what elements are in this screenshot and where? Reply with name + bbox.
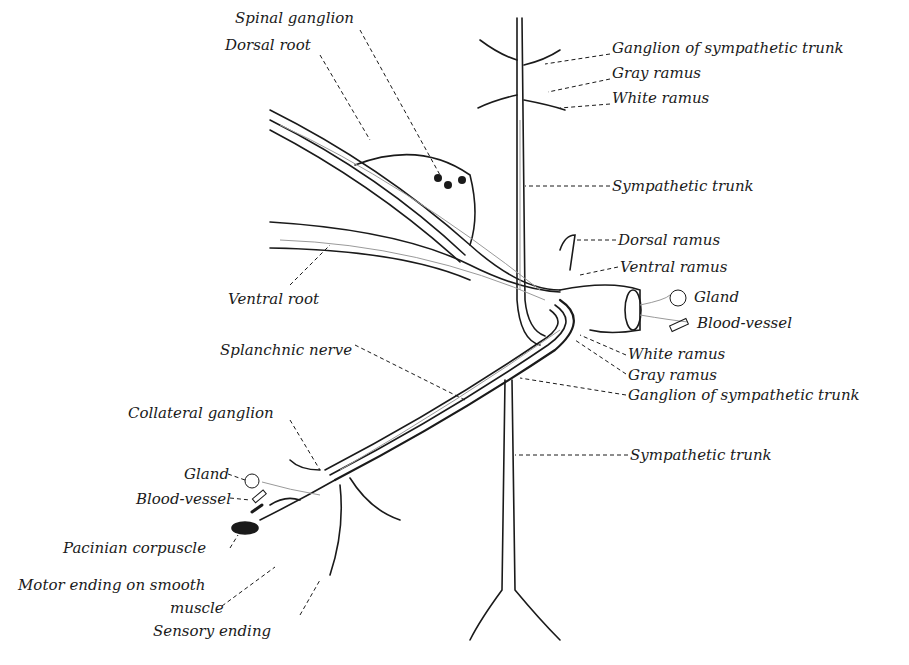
label-gray-ramus-mid: Gray ramus	[628, 367, 717, 384]
label-dorsal-ramus: Dorsal ramus	[618, 232, 720, 249]
label-dorsal-root: Dorsal root	[225, 37, 311, 54]
label-gland-left: Gland	[184, 466, 229, 483]
label-ventral-root: Ventral root	[228, 291, 319, 308]
label-sympathetic-trunk-bottom: Sympathetic trunk	[630, 447, 772, 464]
label-motor-ending-line1: Motor ending on smooth	[18, 577, 206, 594]
label-white-ramus-top: White ramus	[612, 90, 709, 107]
label-motor-ending-line2: muscle	[170, 600, 224, 617]
label-blood-vessel-right: Blood-vessel	[697, 315, 792, 332]
label-pacinian-corpuscle: Pacinian corpuscle	[63, 540, 206, 557]
label-gland-right: Gland	[694, 289, 739, 306]
label-ventral-ramus: Ventral ramus	[620, 259, 727, 276]
label-blood-vessel-left: Blood-vessel	[136, 491, 231, 508]
nerve-illustration	[0, 0, 909, 665]
label-splanchnic-nerve: Splanchnic nerve	[220, 342, 352, 359]
diagram-canvas: Spinal ganglion Dorsal root Ganglion of …	[0, 0, 909, 665]
label-white-ramus-mid: White ramus	[628, 346, 725, 363]
label-ganglion-sympathetic-trunk-mid: Ganglion of sympathetic trunk	[628, 387, 860, 404]
label-gray-ramus-top: Gray ramus	[612, 65, 701, 82]
label-ganglion-sympathetic-trunk-top: Ganglion of sympathetic trunk	[612, 40, 844, 57]
label-spinal-ganglion: Spinal ganglion	[235, 10, 354, 27]
label-sensory-ending: Sensory ending	[153, 623, 271, 640]
label-sympathetic-trunk-top: Sympathetic trunk	[612, 178, 754, 195]
label-collateral-ganglion: Collateral ganglion	[128, 405, 274, 422]
